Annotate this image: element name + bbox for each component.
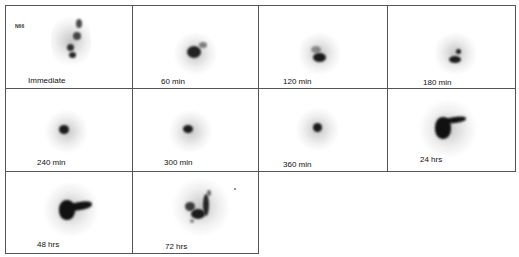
panel-120min: 120 min <box>258 5 388 89</box>
panel-24hrs: 24 hrs <box>387 88 516 172</box>
panel-label: Immediate <box>28 76 65 85</box>
uptake-spot <box>311 46 321 53</box>
uptake-spot <box>187 46 201 58</box>
uptake-spot <box>456 49 461 54</box>
speck <box>234 188 236 190</box>
uptake-spot <box>207 190 211 196</box>
panel-tag: N66 <box>15 23 24 29</box>
scan-halo <box>433 31 478 76</box>
uptake-spot <box>449 56 461 63</box>
uptake-spot <box>67 44 74 51</box>
uptake-spot <box>313 53 326 62</box>
panel-label: 240 min <box>37 158 65 167</box>
panel-label: 300 min <box>164 158 192 167</box>
uptake-spot <box>313 123 322 132</box>
uptake-spot <box>203 194 209 216</box>
panel-label: 120 min <box>283 77 311 86</box>
uptake-spot <box>190 219 194 223</box>
panel-label: 180 min <box>423 78 451 87</box>
uptake-spot <box>73 32 81 40</box>
scan-halo <box>51 11 91 71</box>
uptake-spot <box>76 19 82 28</box>
panel-240min: 240 min <box>5 88 133 172</box>
uptake-spot <box>69 52 76 58</box>
panel-180min: 180 min <box>387 5 516 89</box>
uptake-spot <box>59 125 69 134</box>
panel-360min: 360 min <box>258 88 388 172</box>
uptake-spot <box>199 42 207 48</box>
panel-label: 72 hrs <box>165 242 187 251</box>
panel-48hrs: 48 hrs <box>5 171 133 254</box>
panel-72hrs: 72 hrs <box>132 171 259 254</box>
panel-immediate: N66 Immediate <box>5 5 133 89</box>
scan-halo <box>171 177 231 237</box>
uptake-spot <box>183 125 193 133</box>
panel-label: 60 min <box>161 77 185 86</box>
panel-300min: 300 min <box>132 88 259 172</box>
panel-label: 360 min <box>283 160 311 169</box>
panel-60min: 60 min <box>132 5 259 89</box>
panel-label: 48 hrs <box>37 240 59 249</box>
panel-label: 24 hrs <box>420 155 442 164</box>
